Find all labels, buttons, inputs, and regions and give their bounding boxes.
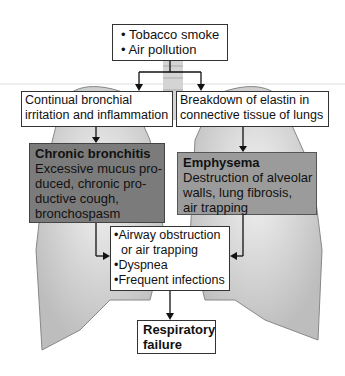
box-line: connective tissue of lungs (180, 108, 325, 123)
symptom-frequent-infections: •Frequent infections (114, 273, 226, 288)
box-line: bronchospasm (35, 206, 159, 221)
box-line: Breakdown of elastin in (180, 93, 325, 108)
copd-diagram: • Tobacco smoke • Air pollution Continua… (0, 0, 345, 376)
symptom-dyspnea: •Dyspnea (114, 258, 226, 273)
symptom-airway-obstruction: •Airway obstruction (114, 228, 226, 243)
box-line: Excessive mucus pro- (35, 161, 159, 176)
box-line: Destruction of alveolar (183, 170, 311, 185)
bronchial-irritation-box: Continual bronchial irritation and infla… (21, 91, 173, 127)
bronchitis-title: Chronic bronchitis (35, 146, 159, 161)
symptoms-box: •Airway obstruction or air trapping •Dys… (110, 226, 230, 291)
box-line: or air trapping (114, 243, 226, 258)
box-line: irritation and inflammation (25, 108, 169, 123)
box-line: Continual bronchial (25, 93, 169, 108)
cause-air-pollution: • Air pollution (121, 42, 219, 57)
chronic-bronchitis-box: Chronic bronchitis Excessive mucus pro- … (29, 143, 165, 223)
emphysema-box: Emphysema Destruction of alveolar walls,… (177, 152, 317, 215)
respiratory-failure-box: Respiratory failure (137, 320, 216, 354)
causes-box: • Tobacco smoke • Air pollution (112, 24, 228, 61)
elastin-breakdown-box: Breakdown of elastin in connective tissu… (176, 91, 329, 127)
box-line: ductive cough, (35, 191, 159, 206)
box-line: duced, chronic pro- (35, 176, 159, 191)
box-line: walls, lung fibrosis, (183, 185, 311, 200)
cause-tobacco-smoke: • Tobacco smoke (121, 27, 219, 42)
box-line: air trapping (183, 200, 311, 215)
emphysema-title: Emphysema (183, 155, 311, 170)
box-line: failure (143, 337, 210, 352)
box-line: Respiratory (143, 322, 210, 337)
